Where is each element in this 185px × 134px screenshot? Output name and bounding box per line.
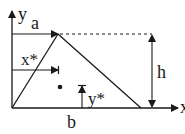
triangle-centroid-diagram: y x a x* y* h b — [0, 0, 185, 134]
triangle-left-side — [12, 34, 58, 108]
h-bottom-arrowhead — [148, 100, 156, 108]
dimension-h-label: h — [157, 62, 166, 82]
dimension-a-label: a — [31, 13, 39, 33]
dimension-x-star-label: x* — [21, 50, 38, 69]
centroid-dot — [58, 85, 63, 90]
h-top-arrowhead — [148, 34, 156, 42]
dimension-b-label: b — [67, 112, 76, 132]
x-axis-label: x — [180, 97, 185, 117]
y-axis-label: y — [18, 4, 27, 24]
dimension-y-star-label: y* — [88, 89, 105, 108]
